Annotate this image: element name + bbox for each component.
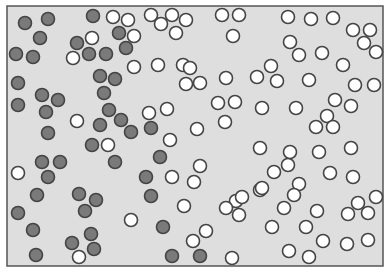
light-particle — [282, 11, 295, 24]
dark-particle — [157, 221, 170, 234]
dark-particle — [145, 122, 158, 135]
light-particle — [256, 102, 269, 115]
dark-particle — [86, 139, 99, 152]
dark-particle — [73, 188, 86, 201]
light-particle — [102, 139, 115, 152]
light-particle — [220, 202, 233, 215]
dark-particle — [145, 190, 158, 203]
light-particle — [347, 24, 360, 37]
light-particle — [282, 159, 295, 172]
light-particle — [227, 30, 240, 43]
light-particle — [342, 208, 355, 221]
light-particle — [128, 30, 141, 43]
dark-particle — [109, 156, 122, 169]
light-particle — [170, 27, 183, 40]
dark-particle — [88, 243, 101, 256]
dark-particle — [71, 37, 84, 50]
light-particle — [229, 96, 242, 109]
light-particle — [337, 59, 350, 72]
dark-particle — [42, 13, 55, 26]
light-particle — [284, 146, 297, 159]
light-particle — [324, 167, 337, 180]
dark-particle — [12, 99, 25, 112]
dark-particle — [30, 249, 43, 262]
light-particle — [233, 209, 246, 222]
dark-particle — [34, 32, 47, 45]
dark-particle — [66, 237, 79, 250]
light-particle — [352, 197, 365, 210]
light-particle — [305, 13, 318, 26]
light-particle — [362, 207, 375, 220]
light-particle — [368, 79, 381, 92]
light-particle — [311, 205, 324, 218]
dark-particle — [54, 156, 67, 169]
dark-particle — [27, 51, 40, 64]
dark-particle — [79, 205, 92, 218]
light-particle — [254, 142, 267, 155]
light-particle — [345, 100, 358, 113]
dark-particle — [94, 119, 107, 132]
light-particle — [71, 115, 84, 128]
light-particle — [188, 176, 201, 189]
light-particle — [265, 60, 278, 73]
dark-particle — [10, 48, 23, 61]
dark-particle — [103, 104, 116, 117]
light-particle — [180, 78, 193, 91]
light-particle — [73, 251, 86, 264]
light-particle — [220, 72, 233, 85]
dark-particle — [100, 48, 113, 61]
light-particle — [358, 37, 371, 50]
dark-particle — [12, 77, 25, 90]
dark-particle — [120, 42, 133, 55]
light-particle — [341, 238, 354, 251]
light-particle — [12, 167, 25, 180]
light-particle — [219, 116, 232, 129]
dark-particle — [19, 17, 32, 30]
light-particle — [122, 14, 135, 27]
light-particle — [184, 62, 197, 75]
dark-particle — [83, 48, 96, 61]
light-particle — [226, 252, 239, 265]
light-particle — [143, 107, 156, 120]
dark-particle — [85, 228, 98, 241]
dark-particle — [36, 156, 49, 169]
light-particle — [303, 74, 316, 87]
light-particle — [256, 182, 269, 195]
light-particle — [180, 14, 193, 27]
light-particle — [271, 75, 284, 88]
dark-particle — [194, 250, 207, 263]
light-particle — [345, 142, 358, 155]
dark-particle — [87, 10, 100, 23]
dark-particle — [42, 127, 55, 140]
light-particle — [362, 234, 375, 247]
light-particle — [161, 103, 174, 116]
light-particle — [251, 71, 264, 84]
dark-particle — [31, 189, 44, 202]
dark-particle — [115, 114, 128, 127]
light-particle — [166, 9, 179, 22]
light-particle — [347, 171, 360, 184]
dark-particle — [98, 87, 111, 100]
light-particle — [155, 18, 168, 31]
light-particle — [293, 49, 306, 62]
light-particle — [166, 171, 179, 184]
light-particle — [303, 251, 316, 264]
dark-particle — [52, 94, 65, 107]
light-particle — [67, 52, 80, 65]
light-particle — [268, 166, 281, 179]
dark-particle — [27, 224, 40, 237]
light-particle — [191, 123, 204, 136]
light-particle — [178, 200, 191, 213]
light-particle — [200, 225, 213, 238]
light-particle — [125, 214, 138, 227]
light-particle — [313, 146, 326, 159]
dark-particle — [113, 27, 126, 40]
dark-particle — [125, 126, 138, 139]
light-particle — [128, 61, 141, 74]
light-particle — [317, 235, 330, 248]
diagram-canvas — [0, 0, 387, 273]
light-particle — [300, 221, 313, 234]
dark-particle — [36, 89, 49, 102]
dark-particle — [166, 250, 179, 263]
light-particle — [283, 245, 296, 258]
